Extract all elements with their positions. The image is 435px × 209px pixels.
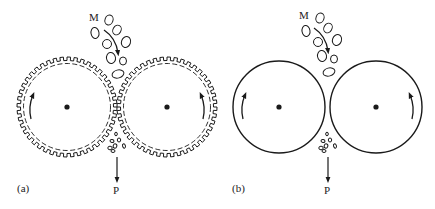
particle [301,25,311,37]
particle [333,143,337,148]
particle [111,69,125,80]
panel-label: (a) [17,182,30,195]
particle [117,138,120,142]
right-roller-axis [373,104,378,109]
particle [328,138,331,142]
feed-particles [301,12,343,77]
particle [111,150,115,153]
left-rotation-arrow [30,95,33,119]
particle [326,132,329,136]
particle [331,55,338,63]
particle [110,139,114,143]
particle [331,33,343,46]
particle [120,57,127,65]
particle [122,143,126,148]
particle [324,143,329,148]
product-particles [319,132,337,152]
left-roller-axis [276,104,281,109]
right-roller-axis [164,104,169,109]
particle [106,52,117,64]
product-label: P [113,184,119,196]
particle [103,40,112,49]
particle [321,139,325,143]
particle [113,143,118,148]
particle [111,24,123,37]
left-rotation-arrow [242,95,245,119]
right-rotation-arrow [410,95,413,119]
panel-b: M P (b) [232,9,422,196]
particle [314,38,323,47]
particle [104,14,115,26]
particle [322,22,334,35]
left-roller-axis [64,104,69,109]
product-particles [108,132,126,152]
particle [115,132,118,136]
particle [322,67,336,78]
particle [90,27,100,39]
feed-arrow [314,28,328,51]
panel-a: M P (a) [17,11,217,196]
particle [120,35,132,48]
feed-label: M [299,9,309,21]
product-label: P [324,184,330,196]
right-rotation-arrow [201,95,204,119]
roller-mill-diagram: M P (a) M P (b) [0,0,435,209]
particle [317,50,328,62]
feed-particles [90,14,132,79]
particle [315,12,326,24]
feed-label: M [89,11,99,23]
particle [322,150,326,153]
panel-label: (b) [232,182,245,195]
